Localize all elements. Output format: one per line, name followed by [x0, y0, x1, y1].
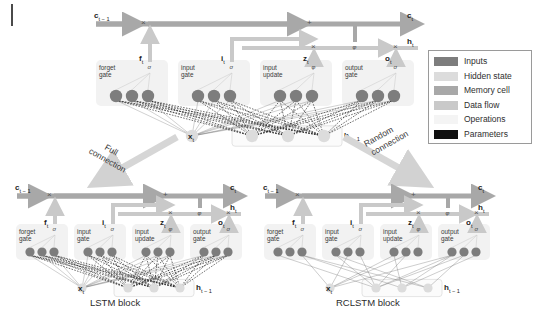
legend-label-inputs: Inputs: [464, 57, 487, 66]
gate-node: [110, 90, 122, 102]
hidden-state-node: [397, 283, 406, 292]
forget-gate-activation-symbol: σ: [53, 226, 57, 233]
forget-gate-label-line1: forget: [19, 228, 35, 235]
input-gate-signal-label: it: [221, 54, 225, 65]
input-update-signal-label: zt: [408, 218, 414, 229]
gate-node: [389, 247, 398, 256]
legend-swatch-hidden-state: [434, 72, 458, 81]
gate-node: [343, 247, 352, 256]
hidden-state-node: [175, 283, 184, 292]
lstm-block: σσφσφforgetgateinputgateinputupdateoutpu…: [14, 184, 244, 304]
forget-gate-label: forgetgate: [19, 228, 35, 243]
operator-multiply-output: ×: [393, 42, 398, 51]
gate-node: [49, 247, 58, 256]
gate-node: [192, 90, 204, 102]
input-update-label: inputupdate: [135, 228, 155, 243]
input-gate-label-line2: gate: [77, 235, 89, 242]
input-update-label-line2: update: [263, 71, 283, 78]
gate-node: [25, 247, 34, 256]
rclstm-block-caption: RCLSTM block: [336, 297, 400, 308]
output-gate-activation-symbol: σ: [475, 226, 479, 233]
hidden-state-in-label: ht − 1: [196, 283, 212, 294]
operator-multiply-output: ×: [226, 208, 231, 217]
operator-add-cell: +: [307, 18, 312, 27]
page-margin-tick: [11, 4, 13, 26]
gate-node: [355, 247, 364, 256]
lstm-block-caption: LSTM block: [90, 297, 140, 308]
hidden-state-node: [149, 283, 158, 292]
legend-item-data-flow: Data flow: [434, 99, 526, 112]
legend-item-inputs: Inputs: [434, 55, 526, 68]
forget-gate-label-line1: forget: [267, 228, 283, 235]
input-label-xt: xt: [326, 284, 332, 295]
output-gate-label: outputgate: [441, 228, 459, 243]
gate-node: [95, 247, 104, 256]
input-update-label-line1: input: [263, 64, 277, 71]
forget-gate-signal-label: ft: [292, 218, 296, 229]
gate-node: [356, 90, 368, 102]
input-gate-label-line1: input: [181, 64, 195, 71]
memory-cell-out-label: ct: [230, 183, 236, 194]
input-gate-signal-label: it: [102, 218, 106, 229]
hidden-state-node: [246, 130, 258, 142]
input-gate-label-line1: input: [325, 228, 339, 235]
output-gate-label-line1: output: [345, 64, 363, 71]
output-gate-label-line1: output: [193, 228, 211, 235]
input-gate-flow: [232, 39, 313, 62]
operator-multiply-update: ×: [168, 208, 173, 217]
gate-node: [199, 247, 208, 256]
operator-add-cell: +: [411, 190, 416, 199]
operator-multiply-update: ×: [311, 42, 316, 51]
legend-swatch-data-flow: [434, 101, 458, 110]
figure-canvas: σσφσφforgetgateinputgateinputupdateoutpu…: [0, 0, 541, 325]
forget-gate-signal-label: ft: [44, 218, 48, 229]
gate-node: [331, 247, 340, 256]
gate-node: [141, 247, 150, 256]
input-update-label: inputupdate: [263, 64, 283, 79]
legend-label-memory-cell: Memory cell: [464, 86, 510, 95]
input-update-activation-symbol: φ: [312, 64, 316, 71]
legend-label-data-flow: Data flow: [464, 101, 499, 110]
legend: Inputs Hidden state Memory cell Data flo…: [428, 50, 532, 144]
forget-gate-label: forgetgate: [267, 228, 283, 243]
gate-node: [211, 247, 220, 256]
legend-label-operations: Operations: [464, 115, 506, 124]
forget-gate-label-line1: forget: [99, 64, 115, 71]
output-gate-label: outputgate: [345, 64, 363, 79]
gate-node: [290, 90, 302, 102]
gate-node: [223, 247, 232, 256]
cell-activation-phi-symbol: φ: [353, 44, 357, 51]
gate-node: [297, 247, 306, 256]
forget-gate-activation-symbol: σ: [148, 64, 152, 71]
gate-node: [142, 90, 154, 102]
input-update-activation-symbol: φ: [169, 226, 173, 233]
gate-node: [372, 90, 384, 102]
memory-cell-in-label: ct − 1: [263, 183, 279, 194]
output-gate-label-line2: gate: [345, 71, 357, 78]
input-gate-activation-symbol: σ: [359, 226, 363, 233]
hidden-state-in-label: ht − 1: [444, 283, 460, 294]
input-gate-label-line2: gate: [325, 235, 337, 242]
gate-node: [126, 90, 138, 102]
output-gate-activation-symbol: σ: [394, 64, 398, 71]
gate-node: [153, 247, 162, 256]
hidden-state-node: [123, 283, 132, 292]
input-gate-activation-symbol: σ: [111, 226, 115, 233]
operator-multiply-forget: ×: [47, 190, 52, 199]
operator-multiply-forget: ×: [295, 190, 300, 199]
gate-node: [447, 247, 456, 256]
hidden-state-out-label: ht: [407, 37, 413, 48]
input-gate-label-line1: input: [77, 228, 91, 235]
legend-label-hidden-state: Hidden state: [464, 72, 512, 81]
forget-gate-signal-label: ft: [139, 54, 143, 65]
output-gate-label-line1: output: [441, 228, 459, 235]
input-update-label-line2: update: [135, 235, 155, 242]
input-gate-activation-symbol: σ: [230, 64, 234, 71]
output-gate-label-line2: gate: [193, 235, 205, 242]
gate-node: [37, 247, 46, 256]
input-update-label-line1: input: [383, 228, 397, 235]
output-gate-label: outputgate: [193, 228, 211, 243]
gate-node: [274, 90, 286, 102]
forget-gate-label: forgetgate: [99, 64, 115, 79]
output-gate-signal-label: ot: [466, 218, 472, 229]
